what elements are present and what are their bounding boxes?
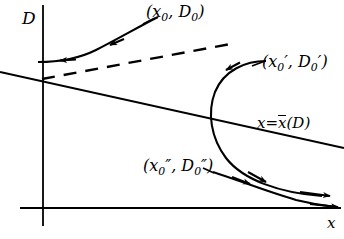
paren-close: ) — [321, 52, 327, 71]
eq-arg: (D) — [287, 114, 311, 132]
separatrix-line — [0, 72, 344, 148]
var-x: x — [152, 2, 161, 21]
overbar — [278, 115, 285, 116]
dashed-asymptote-line — [42, 43, 236, 79]
comma: , — [168, 2, 178, 21]
comma: , — [171, 156, 181, 175]
paren-close: ) — [207, 156, 213, 175]
trajectory-lower-curve — [213, 172, 336, 207]
var-x: x — [268, 52, 277, 71]
trajectory-middle-arrow-1 — [226, 63, 240, 71]
trajectory-upper-curve — [38, 17, 158, 62]
trajectory-upper-arrow-2 — [60, 60, 76, 61]
x-bar-symbol: x — [278, 116, 286, 131]
trajectory-lower-arrow-end — [310, 204, 338, 207]
label-initial-point: (x0, D0) — [146, 4, 204, 24]
separatrix-label: x=x(D) — [257, 116, 310, 131]
figure-container: D x (x0, D0) (x0′, D0′) (x0″, D0″) x=x(D… — [0, 0, 344, 239]
trajectory-lower-arrow-1 — [232, 177, 250, 184]
var-d: D — [178, 2, 191, 21]
d-axis-label: D — [22, 10, 36, 27]
sub-zero-2: 0 — [311, 61, 318, 74]
var-x: x — [149, 156, 158, 175]
var-d: D — [298, 52, 311, 71]
label-prime-point: (x0′, D0′) — [262, 54, 328, 74]
x-bar-var: x — [278, 114, 286, 132]
label-double-prime-point: (x0″, D0″) — [143, 158, 213, 178]
comma: , — [288, 52, 298, 71]
eq-sign: = — [265, 114, 278, 132]
var-d: D — [181, 156, 194, 175]
x-axis-label: x — [327, 216, 335, 231]
paren-close: ) — [198, 2, 204, 21]
